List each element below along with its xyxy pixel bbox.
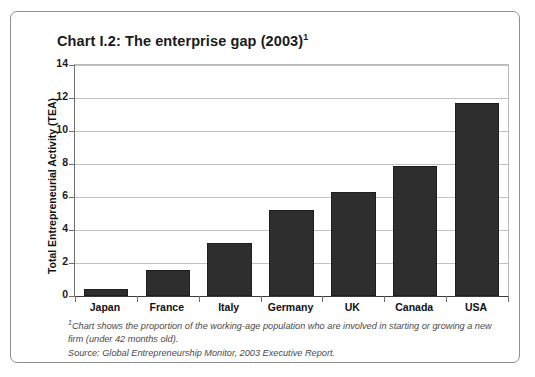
y-tick-label: 6 (46, 190, 68, 201)
bar (84, 289, 129, 296)
y-tick-mark (69, 65, 75, 66)
y-tick-mark (69, 164, 75, 165)
y-tick-label: 8 (46, 157, 68, 168)
bar (269, 210, 314, 296)
y-tick-mark (69, 296, 75, 297)
y-tick-mark (69, 98, 75, 99)
y-tick-label: 0 (46, 289, 68, 300)
gridline (75, 197, 508, 198)
gridline (75, 98, 508, 99)
y-tick-label: 10 (46, 124, 68, 135)
plot-area (74, 64, 509, 297)
y-tick-mark (69, 230, 75, 231)
footnote-note-text: Chart shows the proportion of the workin… (68, 321, 492, 344)
y-tick-label: 4 (46, 223, 68, 234)
bar (331, 192, 376, 296)
bar (393, 166, 438, 296)
x-tick-label: USA (426, 301, 526, 313)
y-axis-tick-labels: 02468101214 (44, 64, 68, 295)
gridline (75, 65, 508, 66)
footnote-source: Source: Global Entrepreneurship Monitor,… (68, 347, 508, 360)
gridline (75, 164, 508, 165)
chart-page: Chart I.2: The enterprise gap (2003)1 To… (0, 0, 535, 377)
footnote-note: 1Chart shows the proportion of the worki… (68, 318, 508, 346)
y-tick-label: 12 (46, 91, 68, 102)
y-tick-label: 14 (46, 58, 68, 69)
y-tick-mark (69, 131, 75, 132)
y-tick-label: 2 (46, 256, 68, 267)
chart-title-superscript: 1 (303, 32, 308, 42)
figure-frame: Chart I.2: The enterprise gap (2003)1 To… (10, 11, 520, 363)
footnotes: 1Chart shows the proportion of the worki… (68, 318, 508, 360)
chart-title-text: Chart I.2: The enterprise gap (2003) (57, 33, 303, 49)
bar (455, 103, 500, 296)
bar (207, 243, 252, 296)
y-tick-mark (69, 197, 75, 198)
gridline (75, 131, 508, 132)
y-tick-mark (69, 263, 75, 264)
bar (146, 270, 191, 296)
chart-title: Chart I.2: The enterprise gap (2003)1 (57, 32, 308, 49)
